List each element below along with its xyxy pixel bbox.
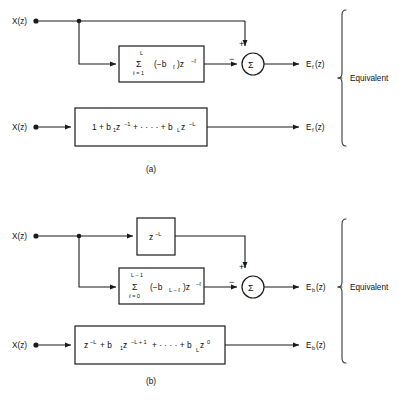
equivalence-brace-a: [338, 10, 346, 146]
equivalence-brace-b: [338, 219, 346, 363]
output-tail-a: (z): [315, 60, 325, 69]
equiv-b-s4: L: [196, 347, 199, 353]
equiv-b-t3: z: [123, 340, 127, 350]
output-tail-a2: (z): [315, 123, 325, 132]
equivalent-label-b: Equivalent: [350, 283, 389, 292]
input-label-b2: X(z): [12, 341, 27, 350]
equiv-a-t1: 1 + b: [92, 122, 111, 132]
input-terminal-dot-a: [33, 18, 38, 23]
input-label-a2: X(z): [12, 123, 27, 132]
equiv-b-t5: z: [200, 340, 204, 350]
filter-body-sub-a: ℓ: [173, 64, 175, 70]
sum-sigma-b: Σ: [132, 282, 138, 292]
caption-b: (b): [146, 377, 156, 386]
equiv-a-e4: −L: [189, 121, 195, 127]
input-label-b: X(z): [12, 232, 27, 241]
sign-plus-a: +: [239, 39, 244, 49]
input-label-a: X(z): [12, 17, 27, 26]
equiv-b-t2: + b: [100, 340, 112, 350]
equiv-a-t3: + · · · · + b: [133, 122, 173, 132]
output-label-b: E b (z): [306, 283, 326, 293]
input-terminal-dot-b2: [33, 342, 38, 347]
input-terminal-dot-b: [33, 233, 38, 238]
wire-delay-to-summer-b: [175, 236, 245, 268]
output-tail-b2: (z): [316, 341, 326, 350]
sum-lower-limit-b: ℓ = 0: [129, 293, 140, 299]
equiv-b-t1: z: [84, 340, 88, 350]
output-sub-a: f: [312, 64, 314, 70]
summation-symbol-b: Σ: [248, 283, 254, 293]
summation-symbol-a: Σ: [248, 60, 254, 70]
filter-body-close-b: )z: [183, 282, 190, 292]
delay-exp-b: −L: [155, 231, 161, 237]
sign-minus-a: −: [229, 54, 234, 64]
sum-upper-limit-a: L: [140, 50, 143, 56]
output-sub-a2: f: [312, 127, 314, 133]
equiv-b-t4: + · · · · + b: [152, 340, 192, 350]
output-label-a: E f (z): [306, 60, 325, 70]
sum-sigma-a: Σ: [136, 59, 142, 69]
filter-body-open-b: (−b: [150, 282, 163, 292]
filter-body-exp-b: −ℓ: [196, 281, 201, 287]
output-label-a2: E f (z): [306, 123, 325, 133]
wire-branch-to-filter-a: [79, 21, 116, 64]
filter-body-open-a: (−b: [154, 59, 167, 69]
output-sub-b2: b: [312, 345, 315, 351]
equiv-b-e5: 0: [207, 339, 210, 345]
output-tail-b: (z): [316, 283, 326, 292]
equivalent-label-a: Equivalent: [350, 74, 389, 83]
caption-a: (a): [146, 165, 156, 174]
equiv-a-t4: z: [181, 122, 185, 132]
input-terminal-dot-a2: [33, 124, 38, 129]
equiv-a-t2: z: [116, 122, 120, 132]
sign-plus-b: +: [239, 262, 244, 272]
output-sub-b: b: [312, 287, 315, 293]
delay-base-b: z: [149, 232, 153, 242]
filter-body-close-a: )z: [177, 59, 184, 69]
wire-branch-to-filter-b: [79, 236, 116, 287]
figure-canvas: X(z) X(z) + − Σ L Σ ℓ = 1 (−b ℓ )z −ℓ 1 …: [0, 0, 403, 401]
sign-minus-b: −: [229, 277, 234, 287]
filter-body-sub-b: L − ℓ: [169, 287, 180, 293]
equiv-b-e1: −L: [90, 339, 96, 345]
equiv-b-e3: −L + 1: [131, 339, 147, 345]
equiv-a-e2: −1: [124, 121, 130, 127]
equiv-a-s3: L: [177, 127, 180, 133]
sum-upper-limit-b: L − 1: [131, 272, 143, 278]
output-label-b2: E b (z): [306, 341, 326, 351]
filter-body-exp-a: −ℓ: [191, 58, 196, 64]
sum-lower-limit-a: ℓ = 1: [133, 70, 144, 76]
